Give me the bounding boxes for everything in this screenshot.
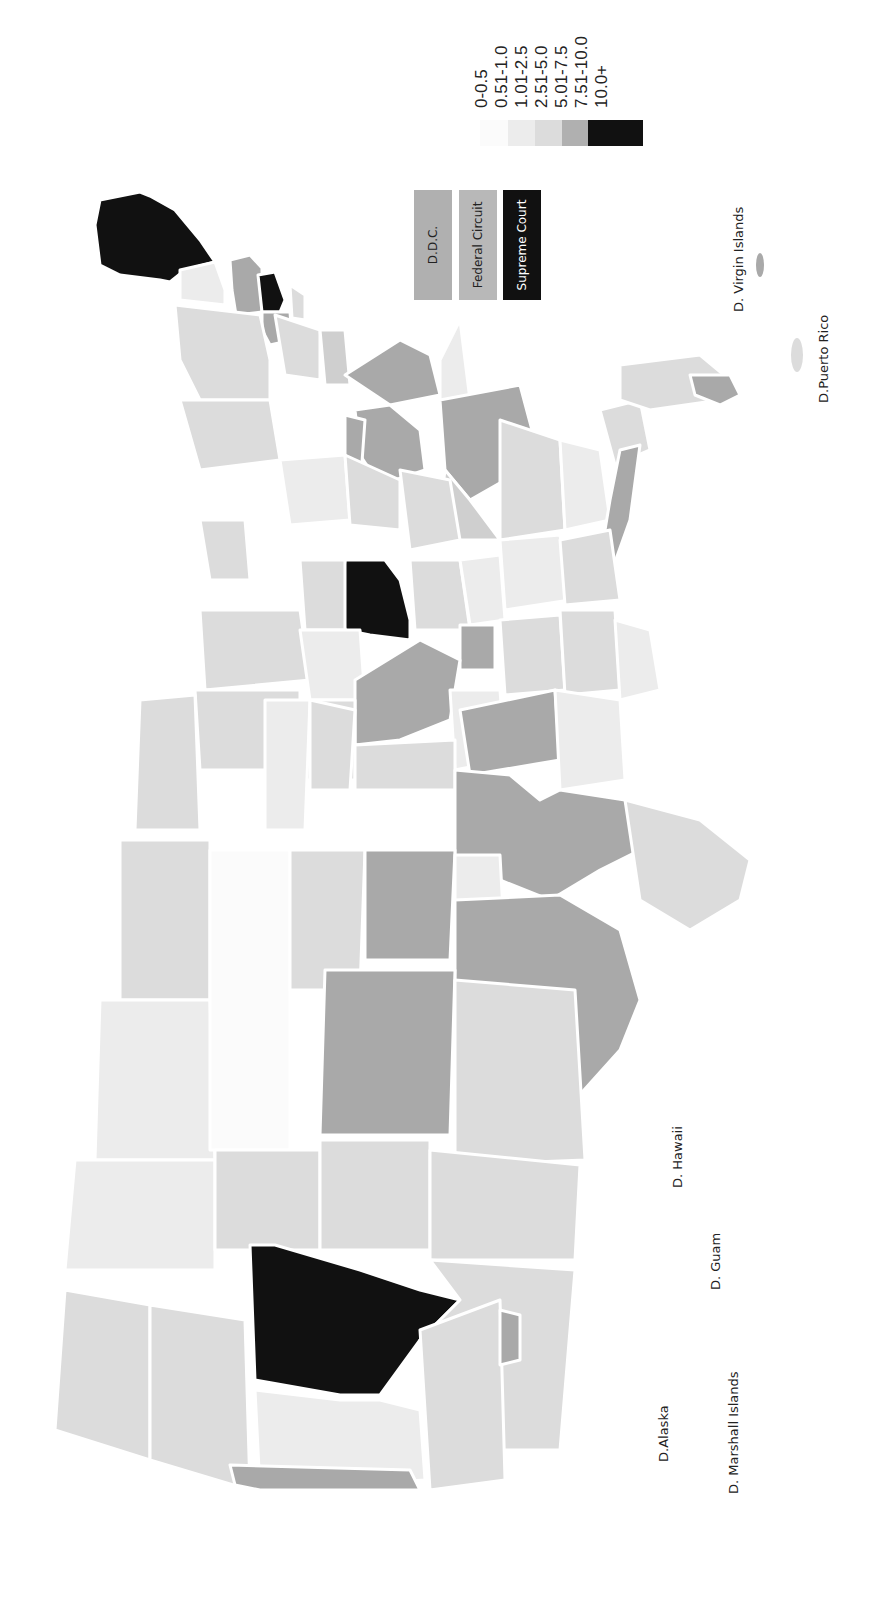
label-virgin-islands: D. Virgin Islands	[731, 207, 746, 312]
virgin-islands-shape[interactable]	[756, 253, 764, 277]
puerto-rico-shape[interactable]	[791, 338, 803, 372]
label-guam: D. Guam	[708, 1233, 723, 1290]
label-marshall-islands: D. Marshall Islands	[726, 1371, 741, 1494]
label-hawaii: D. Hawaii	[670, 1126, 685, 1188]
label-puerto-rico: D.Puerto Rico	[816, 315, 831, 403]
label-alaska: D.Alaska	[656, 1405, 671, 1462]
